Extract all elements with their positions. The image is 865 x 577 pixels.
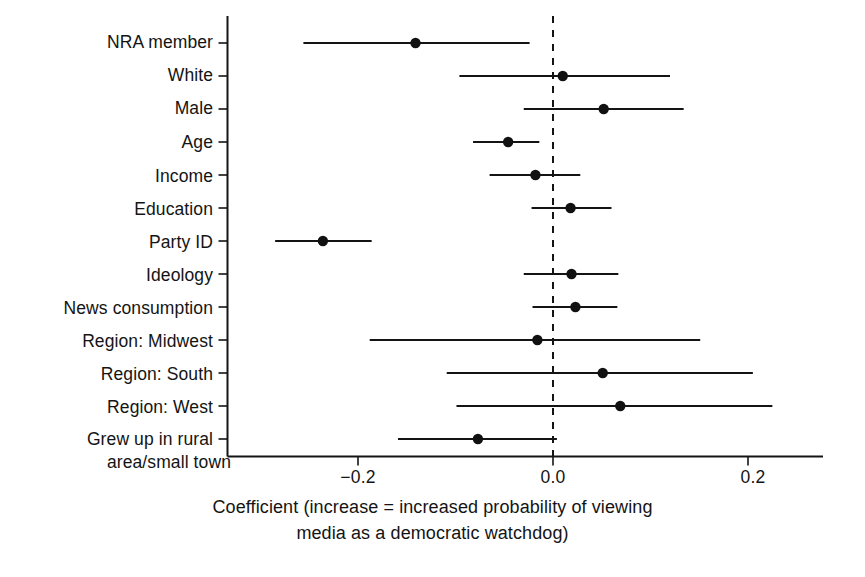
ylabel-education: Education xyxy=(134,199,213,219)
xtick-label-0-2: 0.2 xyxy=(713,467,793,488)
xtick-label-0-0: 0.0 xyxy=(513,467,593,488)
ylabel-ideology: Ideology xyxy=(146,265,213,285)
point-estimate-marker xyxy=(570,302,580,312)
ylabel-party-id: Party ID xyxy=(149,232,213,252)
ylabel-news-consumption: News consumption xyxy=(64,298,213,318)
ylabel-region-west: Region: West xyxy=(107,397,213,417)
point-estimate-marker xyxy=(503,137,513,147)
ylabel-region-south: Region: South xyxy=(101,364,213,384)
point-estimate-marker xyxy=(615,401,625,411)
ylabel-male: Male xyxy=(175,98,213,118)
plot-canvas xyxy=(0,0,865,577)
x-axis-caption-line2: media as a democratic watchdog) xyxy=(0,521,865,546)
point-estimate-marker xyxy=(558,71,568,81)
xtick-label-neg-0-2: −0.2 xyxy=(318,467,398,488)
ylabel-rural-line1: Grew up in rural xyxy=(87,429,213,449)
ylabel-rural-line2: area/small town xyxy=(107,452,231,472)
point-estimate-marker xyxy=(599,104,609,114)
coefficient-plot-figure: NRA member White Male Age Income Educati… xyxy=(0,0,865,577)
point-estimate-marker xyxy=(318,236,328,246)
ylabel-region-midwest: Region: Midwest xyxy=(82,331,213,351)
ylabel-age: Age xyxy=(182,132,213,152)
x-axis-caption-line1: Coefficient (increase = increased probab… xyxy=(0,495,865,520)
point-estimate-marker xyxy=(410,38,420,48)
point-estimate-marker xyxy=(532,335,542,345)
ylabel-white: White xyxy=(168,65,213,85)
point-estimate-marker xyxy=(473,434,483,444)
point-estimate-marker xyxy=(598,368,608,378)
point-estimate-marker xyxy=(565,203,575,213)
point-estimate-marker xyxy=(530,170,540,180)
ylabel-income: Income xyxy=(155,166,213,186)
ylabel-nra-member: NRA member xyxy=(107,32,213,52)
point-estimate-marker xyxy=(566,269,576,279)
